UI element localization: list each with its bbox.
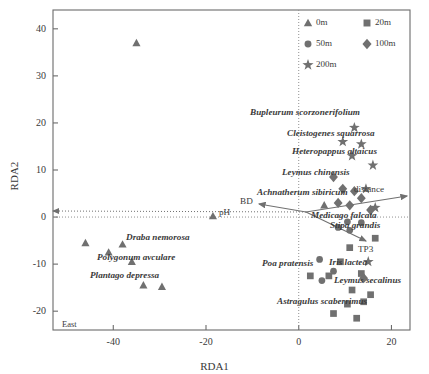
data-point-20m (346, 244, 353, 251)
legend-marker-20m (364, 20, 371, 27)
env-vector-label-distance: distance (354, 185, 384, 194)
corner-annotation-east: East (62, 319, 77, 329)
data-point-20m (367, 291, 374, 298)
rda-ordination-chart: RDA1 RDA2 -40-20020-20-10010203040 Buple… (0, 0, 429, 374)
legend-marker-50m (305, 41, 312, 48)
y-tick-label: 40 (18, 23, 46, 34)
data-point-20m (307, 273, 314, 280)
data-point-20m (330, 310, 337, 317)
env-vector-label-ph: pH (219, 208, 230, 217)
data-point-0m (139, 281, 147, 288)
legend-marker-0m (304, 19, 312, 27)
legend-label-100m: 100m (375, 38, 396, 48)
y-tick-label: 10 (18, 164, 46, 175)
species-label: Poa pratensis (262, 259, 313, 268)
x-tick-label: -20 (192, 336, 220, 347)
data-point-0m (158, 282, 166, 289)
legend-markers (302, 19, 371, 70)
species-label: Leymus secalinus (334, 276, 401, 285)
y-tick-label: 0 (18, 211, 46, 222)
species-label: Achnatherum sibiricum (257, 188, 348, 197)
x-tick-label: 0 (285, 336, 313, 347)
legend-label-0m: 0m (316, 17, 328, 27)
data-point-0m (81, 239, 89, 246)
data-point-0m (132, 39, 140, 46)
y-axis-title: RDA2 (8, 146, 20, 206)
y-tick-label: -10 (18, 258, 46, 269)
data-point-20m (372, 235, 379, 242)
legend-marker-200m (302, 59, 313, 70)
species-label: Stipa grandis (330, 221, 380, 230)
legend-marker-100m (362, 39, 371, 50)
y-tick-label: 20 (18, 117, 46, 128)
legend-label-200m: 200m (316, 59, 337, 69)
species-label: Heteropappus altaicus (292, 147, 377, 156)
species-label: Cleistogenes squarrosa (287, 129, 375, 138)
x-tick-label: -40 (99, 336, 127, 347)
legend-label-20m: 20m (375, 17, 391, 27)
species-label: Iris lactea (329, 258, 367, 267)
data-point-0m (209, 212, 217, 219)
y-tick-label: 30 (18, 70, 46, 81)
x-axis-title: RDA1 (0, 360, 429, 372)
data-point-50m (316, 256, 323, 263)
data-point-20m (353, 315, 360, 322)
species-label: Medicago falcata (311, 211, 377, 220)
legend-label-50m: 50m (316, 38, 332, 48)
data-point-0m (320, 201, 328, 208)
species-label: Polygonum avculare (97, 253, 175, 262)
data-point-50m (330, 268, 337, 275)
species-label: Bupleurum scorzonerifolium (250, 108, 360, 117)
species-label: Leymus chinensis (282, 168, 350, 177)
env-vector-label-bd: BD (240, 197, 253, 206)
data-point-100m (357, 193, 366, 203)
data-point-200m (368, 160, 379, 170)
env-vector-label-tp3: TP3 (358, 245, 373, 254)
species-label: Plantago depressa (90, 271, 159, 280)
data-point-100m (345, 200, 354, 210)
species-label: Astragulus scaberrimus (277, 297, 367, 306)
data-point-20m (349, 287, 356, 294)
data-point-50m (319, 277, 326, 284)
species-label: Draba nemorosa (126, 233, 190, 242)
y-tick-label: -20 (18, 305, 46, 316)
x-tick-label: 20 (377, 336, 405, 347)
